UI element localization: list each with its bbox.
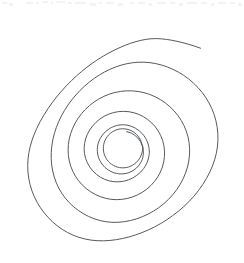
spiral-drawing <box>0 0 244 263</box>
canvas-background <box>0 0 244 263</box>
drawing-canvas[interactable] <box>0 0 244 263</box>
